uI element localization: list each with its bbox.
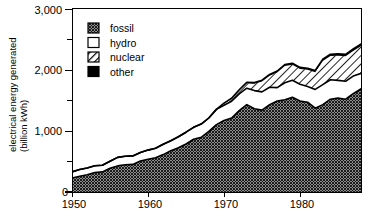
y-tick-label-2000: 2,000 xyxy=(34,64,62,76)
y-tick-label-3000: 3,000 xyxy=(34,4,62,16)
legend-item-nuclear[interactable]: nuclear xyxy=(88,51,145,63)
legend-swatch-nuclear xyxy=(88,52,99,62)
y-tick-label-0: 0 xyxy=(62,186,68,198)
legend-swatch-hydro xyxy=(88,38,99,48)
y-axis-title: electrical energy generated (billion kWh… xyxy=(7,37,29,152)
stacked-area-chart: 3,000 2,000 1,000 0 1950 1960 1970 1980 … xyxy=(0,0,372,217)
legend-item-hydro[interactable]: hydro xyxy=(88,37,136,49)
legend-label-other: other xyxy=(110,66,134,78)
x-tick-label-1980: 1980 xyxy=(290,198,314,210)
y-axis-title-line-2: (billion kWh) xyxy=(18,100,29,152)
legend-item-fossil[interactable]: fossil xyxy=(88,22,134,34)
legend-swatch-other xyxy=(88,67,99,77)
x-tick-label-1950: 1950 xyxy=(62,198,86,210)
chart-legend: fossil hydro nuclear other xyxy=(88,22,145,78)
y-tick-labels: 3,000 2,000 1,000 0 xyxy=(34,4,68,199)
chart-figure: 3,000 2,000 1,000 0 1950 1960 1970 1980 … xyxy=(0,0,372,217)
x-tick-label-1960: 1960 xyxy=(138,198,162,210)
y-axis-title-line-1: electrical energy generated xyxy=(7,37,18,152)
y-tick-label-1000: 1,000 xyxy=(34,125,62,137)
x-tick-label-1970: 1970 xyxy=(214,198,238,210)
x-tick-labels: 1950 1960 1970 1980 xyxy=(62,198,314,210)
legend-label-nuclear: nuclear xyxy=(110,51,145,63)
legend-item-other[interactable]: other xyxy=(88,66,134,78)
legend-swatch-fossil xyxy=(88,23,99,33)
legend-label-hydro: hydro xyxy=(110,37,136,49)
legend-label-fossil: fossil xyxy=(110,22,134,34)
